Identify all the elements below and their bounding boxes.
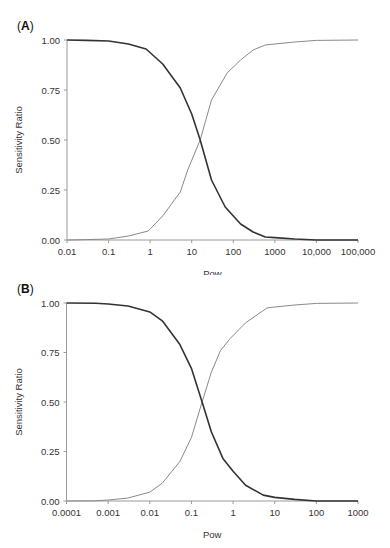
y-tick-label: 0.75 (41, 347, 60, 358)
y-tick-label: 0.50 (42, 135, 61, 146)
x-tick-label: 1 (147, 246, 152, 257)
x-tick-label: 0.01 (141, 507, 160, 518)
x-tick-label: 1 (230, 507, 235, 518)
x-tick-label: 0.01 (58, 246, 77, 257)
x-axis-title: Pow (203, 268, 222, 275)
series-decreasing (67, 40, 358, 240)
x-tick-label: 1000 (264, 246, 285, 257)
x-tick-label: 100,000 (341, 246, 375, 257)
y-tick-label: 1.00 (42, 35, 61, 46)
chart-panel-a: (A)0.000.250.500.751.000.010.11101001000… (0, 0, 390, 275)
x-tick-label: 100 (308, 507, 324, 518)
series-increasing (67, 303, 359, 501)
line-chart-a: (A)0.000.250.500.751.000.010.11101001000… (0, 0, 390, 275)
y-tick-label: 0.00 (42, 235, 61, 246)
x-tick-label: 100 (225, 246, 241, 257)
y-axis-title: Sensitivity Ratio (13, 368, 24, 436)
x-tick-label: 0.1 (185, 507, 198, 518)
series-increasing (67, 40, 358, 240)
y-axis-title: Sensitivity Ratio (13, 106, 24, 174)
line-chart-b: (B)0.000.250.500.751.000.00010.0010.010.… (0, 275, 390, 548)
y-tick-label: 1.00 (41, 298, 60, 309)
y-tick-label: 0.00 (41, 496, 60, 507)
x-tick-label: 10 (186, 246, 197, 257)
chart-panel-b: (B)0.000.250.500.751.000.00010.0010.010.… (0, 275, 390, 548)
x-axis-title: Pow (203, 529, 222, 540)
panel-label: (A) (17, 19, 34, 33)
y-tick-label: 0.25 (41, 446, 60, 457)
panel-label: (B) (17, 282, 34, 296)
x-tick-label: 10,000 (302, 246, 331, 257)
x-tick-label: 0.001 (96, 507, 120, 518)
x-tick-label: 10 (269, 507, 280, 518)
series-decreasing (67, 303, 359, 501)
y-tick-label: 0.50 (41, 397, 60, 408)
y-tick-label: 0.25 (42, 185, 61, 196)
x-tick-label: 1000 (347, 507, 368, 518)
x-tick-label: 0.0001 (52, 507, 81, 518)
y-tick-label: 0.75 (42, 85, 61, 96)
x-tick-label: 0.1 (102, 246, 115, 257)
